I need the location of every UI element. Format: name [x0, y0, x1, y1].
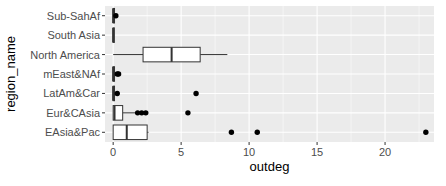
- box-iqr: [113, 125, 147, 140]
- outlier-point: [423, 130, 428, 135]
- y-tick-label: mEast&NAf: [43, 68, 101, 80]
- y-tick-label: North America: [30, 49, 101, 61]
- x-axis: 05101520: [110, 142, 391, 158]
- y-tick-label: LatAm&Car: [43, 87, 100, 99]
- y-tick-label: Sub-SahAf: [47, 10, 101, 22]
- outlier-point: [229, 130, 234, 135]
- y-tick-label: South Asia: [47, 29, 100, 41]
- boxplot-chart: EAsia&PacEur&CAsiaLatAm&CarmEast&NAfNort…: [0, 0, 446, 186]
- y-tick-label: Eur&CAsia: [46, 107, 101, 119]
- x-axis-title: outdeg: [250, 159, 290, 174]
- outlier-point: [143, 110, 148, 115]
- outlier-point: [113, 13, 118, 18]
- y-tick-label: EAsia&Pac: [45, 126, 101, 138]
- x-tick-label: 20: [379, 146, 391, 158]
- outlier-point: [193, 91, 198, 96]
- y-axis: EAsia&PacEur&CAsiaLatAm&CarmEast&NAfNort…: [30, 10, 105, 139]
- outlier-point: [116, 71, 121, 76]
- outlier-point: [185, 110, 190, 115]
- box-south-asia: [113, 28, 114, 43]
- y-axis-title: region_name: [3, 36, 18, 112]
- x-tick-label: 10: [243, 146, 255, 158]
- outlier-point: [115, 91, 120, 96]
- x-tick-label: 5: [178, 146, 184, 158]
- x-tick-label: 15: [311, 146, 323, 158]
- x-tick-label: 0: [110, 146, 116, 158]
- outlier-point: [255, 130, 260, 135]
